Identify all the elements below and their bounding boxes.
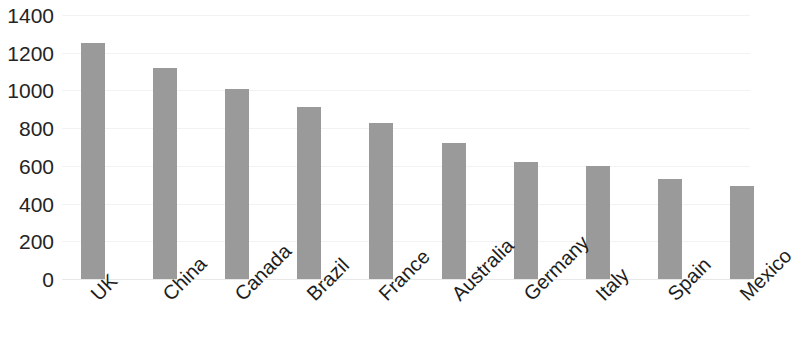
x-axis-tick-label: UK [87,270,121,304]
y-axis-tick-label: 1400 [7,5,54,26]
y-axis-tick-label: 1000 [7,80,54,101]
x-axis: UKChinaCanadaBrazilFranceAustraliaGerman… [62,0,750,361]
y-axis-tick-label: 400 [19,193,54,214]
y-axis-tick-label: 1200 [7,42,54,63]
y-axis-tick-label: 0 [42,269,54,290]
x-axis-tick-label: France [375,246,433,304]
x-axis-tick-label: Canada [231,240,295,304]
y-axis-tick-label: 800 [19,118,54,139]
y-axis-tick-label: 200 [19,231,54,252]
y-axis-tick-label: 600 [19,155,54,176]
x-axis-tick-label: Spain [664,254,714,304]
x-axis-tick-label: Brazil [303,255,353,305]
x-axis-tick-label: China [159,253,210,304]
x-axis-tick-label: Mexico [736,245,795,304]
x-axis-tick-label: Italy [592,264,632,304]
x-axis-tick-label: Australia [448,235,517,304]
y-axis: 1400120010008006004002000 [0,0,62,361]
x-axis-tick-label: Germany [520,232,592,304]
